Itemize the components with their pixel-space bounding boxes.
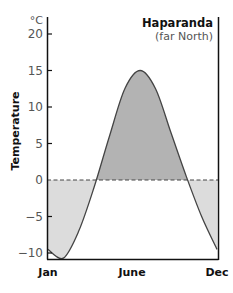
x-tick-label-jan: Jan — [37, 266, 57, 279]
y-tick-label: 15 — [28, 64, 43, 78]
y-tick-label: −5 — [25, 210, 43, 224]
chart-title: Haparanda — [142, 16, 213, 30]
x-tick-label-dec: Dec — [205, 266, 228, 279]
y-tick-label: 0 — [35, 173, 43, 187]
y-tick-label: 10 — [28, 100, 43, 114]
unit-label: °C — [30, 14, 44, 27]
chart-subtitle: (far North) — [155, 30, 213, 43]
plot-area — [47, 71, 218, 259]
temperature-chart: °C 20 15 10 5 0 −5 −10 Temperature Jan J… — [0, 0, 233, 293]
y-tick-label: 5 — [35, 137, 43, 151]
x-tick-label-june: June — [117, 266, 145, 279]
y-tick-label: −10 — [18, 246, 43, 260]
x-tick-labels: Jan June Dec — [37, 266, 228, 279]
y-axis-label: Temperature — [9, 91, 22, 170]
y-tick-label: 20 — [28, 27, 43, 41]
